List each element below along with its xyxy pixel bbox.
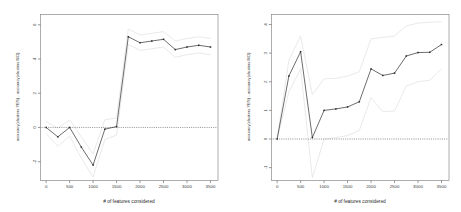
svg-text:3000: 3000 bbox=[182, 184, 192, 189]
chart-svg-left: 0500100015002000250030003500 -20246 # of… bbox=[0, 0, 231, 212]
svg-text:3500: 3500 bbox=[436, 184, 446, 189]
chart-panel-right: 0500100015002000250030003500 -101234 # o… bbox=[231, 0, 461, 212]
svg-text:4: 4 bbox=[32, 57, 37, 60]
svg-text:-2: -2 bbox=[32, 159, 37, 163]
svg-text:1000: 1000 bbox=[88, 184, 98, 189]
svg-text:6: 6 bbox=[32, 23, 37, 26]
svg-text:2000: 2000 bbox=[366, 184, 376, 189]
svg-text:2: 2 bbox=[262, 80, 267, 83]
confidence-band-right bbox=[277, 22, 441, 178]
svg-text:1: 1 bbox=[262, 109, 267, 112]
svg-text:500: 500 bbox=[296, 184, 304, 189]
y-axis-title-right: accuracy(clusters YES) - accuracy(cluste… bbox=[246, 52, 251, 141]
svg-text:0: 0 bbox=[45, 184, 48, 189]
x-axis-ticks-left: 0500100015002000250030003500 bbox=[45, 181, 216, 190]
svg-text:2000: 2000 bbox=[135, 184, 145, 189]
y-axis-ticks-left: -20246 bbox=[32, 23, 41, 164]
svg-text:2500: 2500 bbox=[159, 184, 169, 189]
svg-text:1500: 1500 bbox=[112, 184, 122, 189]
data-series-left bbox=[46, 37, 210, 165]
plot-frame-right bbox=[271, 15, 449, 181]
y-axis-title-left: accuracy(clusters YES) - accuracy(cluste… bbox=[15, 52, 20, 141]
svg-text:1500: 1500 bbox=[342, 184, 352, 189]
y-axis-ticks-right: -101234 bbox=[262, 23, 271, 170]
chart-panel-left: 0500100015002000250030003500 -20246 # of… bbox=[0, 0, 231, 212]
svg-text:3000: 3000 bbox=[413, 184, 423, 189]
svg-text:3500: 3500 bbox=[206, 184, 216, 189]
svg-text:500: 500 bbox=[66, 184, 74, 189]
data-series-right bbox=[277, 45, 441, 139]
svg-text:4: 4 bbox=[262, 23, 267, 26]
data-points-left bbox=[45, 36, 211, 166]
svg-text:0: 0 bbox=[32, 126, 37, 129]
x-axis-ticks-right: 0500100015002000250030003500 bbox=[275, 181, 446, 190]
svg-text:0: 0 bbox=[262, 137, 267, 140]
chart-svg-right: 0500100015002000250030003500 -101234 # o… bbox=[231, 0, 461, 212]
svg-text:2500: 2500 bbox=[389, 184, 399, 189]
svg-text:1000: 1000 bbox=[319, 184, 329, 189]
svg-text:-1: -1 bbox=[262, 165, 267, 169]
svg-text:0: 0 bbox=[275, 184, 278, 189]
confidence-band-left bbox=[46, 29, 210, 177]
svg-text:2: 2 bbox=[32, 91, 37, 94]
x-axis-title-left: # of features considered bbox=[103, 199, 155, 204]
plot-frame-left bbox=[41, 15, 219, 181]
figure-root: 0500100015002000250030003500 -20246 # of… bbox=[0, 0, 461, 212]
svg-text:3: 3 bbox=[262, 51, 267, 54]
x-axis-title-right: # of features considered bbox=[334, 199, 386, 204]
